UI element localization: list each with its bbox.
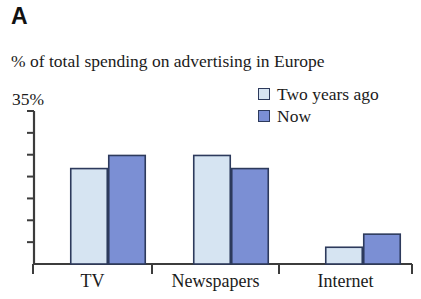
bar-newspapers-now <box>232 169 269 264</box>
plot-area <box>0 0 421 299</box>
category-label-newspapers: Newspapers <box>152 269 279 293</box>
bar-tv-now <box>109 155 146 264</box>
bar-newspapers-two-years-ago <box>194 155 231 264</box>
chart-figure: A % of total spending on advertising in … <box>0 0 421 299</box>
category-label-tv: TV <box>33 269 152 293</box>
bar-tv-two-years-ago <box>71 169 108 264</box>
bar-internet-now <box>364 234 401 264</box>
category-label-internet: Internet <box>279 269 412 293</box>
bar-internet-two-years-ago <box>326 247 363 264</box>
bars-group <box>71 155 401 264</box>
